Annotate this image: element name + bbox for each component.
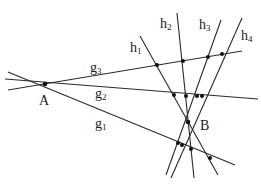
label-g3: g3 — [90, 60, 102, 76]
label-point-B: B — [200, 118, 209, 133]
geometry-diagram: g1g2g3h1h2h3h4AB — [0, 0, 261, 185]
intersection-point — [176, 141, 180, 145]
intersection-point — [200, 94, 204, 98]
point-B — [186, 120, 191, 125]
label-h3: h3 — [199, 17, 211, 33]
intersection-point — [189, 147, 193, 151]
point-A — [43, 82, 48, 87]
intersection-point — [220, 52, 224, 56]
intersection-point — [172, 93, 176, 97]
label-h4: h4 — [241, 28, 253, 44]
intersection-point — [195, 94, 199, 98]
intersection-point — [206, 55, 210, 59]
intersection-point — [180, 143, 184, 147]
label-g2: g2 — [95, 86, 107, 102]
label-g1: g1 — [95, 116, 107, 132]
intersection-points-group — [43, 52, 224, 160]
label-h1: h1 — [130, 40, 142, 56]
label-point-A: A — [39, 93, 50, 108]
intersection-point — [155, 63, 159, 67]
intersection-point — [181, 59, 185, 63]
labels-group: g1g2g3h1h2h3h4AB — [39, 16, 253, 133]
intersection-point — [208, 156, 212, 160]
label-h2: h2 — [160, 16, 172, 32]
intersection-point — [184, 94, 188, 98]
